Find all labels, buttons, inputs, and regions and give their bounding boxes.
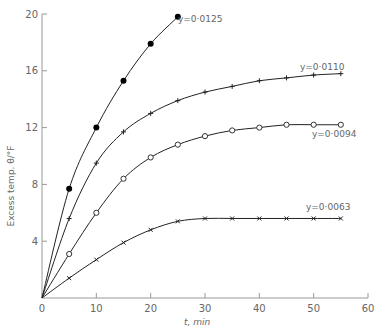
data-point: [202, 134, 207, 139]
x-tick-label: 10: [90, 303, 103, 314]
y-tick-label: 4: [32, 236, 38, 247]
y-axis-label: Excess temp. θ/°F: [6, 145, 16, 226]
data-point: [66, 186, 72, 192]
y-tick-label: 16: [25, 65, 38, 76]
x-axis-label: t, min: [184, 317, 211, 327]
data-point: [175, 142, 180, 147]
x-tick-label: 50: [307, 303, 320, 314]
data-point: [148, 41, 154, 47]
data-point: [121, 176, 126, 181]
series-1: y=0·0110: [42, 62, 345, 298]
series-label: y=0·0094: [312, 129, 357, 139]
chart: 010203040506048121620t, minExcess temp. …: [0, 0, 386, 329]
data-point: [148, 155, 153, 160]
data-point: [121, 78, 127, 84]
series-label: y=0·0125: [178, 14, 222, 24]
data-point: [284, 122, 289, 127]
series-3: y=0·0063: [42, 202, 350, 298]
data-point: [230, 128, 235, 133]
y-tick-label: 12: [25, 122, 38, 133]
y-tick-label: 20: [25, 9, 38, 20]
data-point: [311, 122, 316, 127]
x-tick-label: 30: [199, 303, 212, 314]
data-point: [94, 210, 99, 215]
data-point: [67, 251, 72, 256]
x-tick-label: 60: [362, 303, 375, 314]
data-point: [93, 125, 99, 131]
data-point: [338, 122, 343, 127]
x-tick-label: 40: [253, 303, 266, 314]
y-tick-label: 8: [32, 179, 38, 190]
data-point: [257, 125, 262, 130]
series-label: y=0·0110: [300, 62, 345, 72]
series-label: y=0·0063: [306, 202, 350, 212]
x-tick-label: 20: [144, 303, 157, 314]
x-tick-label: 0: [39, 303, 45, 314]
